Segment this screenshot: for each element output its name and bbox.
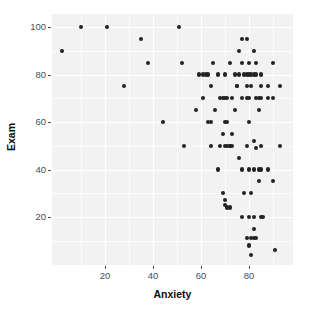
data-point bbox=[278, 144, 282, 148]
data-point bbox=[237, 72, 241, 76]
data-point bbox=[209, 84, 213, 88]
data-point bbox=[182, 144, 186, 148]
data-point bbox=[60, 49, 64, 53]
data-point bbox=[261, 215, 265, 219]
gridline-minor-horizontal bbox=[52, 193, 293, 194]
data-point bbox=[252, 49, 256, 53]
data-point bbox=[259, 96, 263, 100]
data-point bbox=[240, 167, 244, 171]
data-point bbox=[230, 96, 234, 100]
data-point bbox=[213, 108, 217, 112]
gridline-minor-horizontal bbox=[52, 51, 293, 52]
data-point bbox=[228, 205, 232, 209]
y-axis-title: Exam bbox=[5, 97, 17, 177]
data-point bbox=[252, 167, 256, 171]
data-point bbox=[266, 167, 270, 171]
data-point bbox=[225, 96, 229, 100]
x-axis-title: Anxiety bbox=[52, 288, 293, 300]
gridline-minor-horizontal bbox=[52, 241, 293, 242]
gridline-minor-vertical bbox=[81, 14, 82, 265]
data-point bbox=[271, 179, 275, 183]
data-point bbox=[257, 179, 261, 183]
data-point bbox=[254, 72, 258, 76]
x-tick-mark bbox=[201, 266, 202, 269]
gridline-major-horizontal bbox=[52, 217, 293, 218]
x-tick-label: 20 bbox=[90, 271, 120, 281]
data-point bbox=[252, 227, 256, 231]
gridline-major-horizontal bbox=[52, 122, 293, 123]
data-point bbox=[242, 191, 246, 195]
data-point bbox=[233, 108, 237, 112]
data-point bbox=[240, 61, 244, 65]
data-point bbox=[216, 167, 220, 171]
data-point bbox=[209, 120, 213, 124]
gridline-minor-vertical bbox=[177, 14, 178, 265]
data-point bbox=[221, 132, 225, 136]
data-point bbox=[266, 96, 270, 100]
data-point bbox=[245, 144, 249, 148]
data-point bbox=[247, 120, 251, 124]
x-tick-label: 80 bbox=[234, 271, 264, 281]
data-point bbox=[79, 25, 83, 29]
data-point bbox=[252, 215, 256, 219]
data-point bbox=[221, 191, 225, 195]
gridline-minor-vertical bbox=[273, 14, 274, 265]
data-point bbox=[223, 72, 227, 76]
data-point bbox=[259, 144, 263, 148]
y-tick-mark bbox=[48, 170, 51, 171]
data-point bbox=[146, 61, 150, 65]
data-point bbox=[266, 84, 270, 88]
data-point bbox=[249, 253, 253, 257]
data-point bbox=[235, 84, 239, 88]
data-point bbox=[139, 37, 143, 41]
data-point bbox=[211, 61, 215, 65]
data-point bbox=[194, 108, 198, 112]
y-tick-mark bbox=[48, 27, 51, 28]
data-point bbox=[278, 84, 282, 88]
data-point bbox=[197, 72, 201, 76]
data-point bbox=[254, 61, 258, 65]
x-tick-label: 40 bbox=[138, 271, 168, 281]
x-tick-mark bbox=[249, 266, 250, 269]
scatter-chart: 2040608010020406080 Exam Anxiety bbox=[0, 0, 311, 314]
data-point bbox=[218, 144, 222, 148]
gridline-major-vertical bbox=[153, 14, 154, 265]
data-point bbox=[259, 84, 263, 88]
data-point bbox=[259, 167, 263, 171]
y-tick-label: 100 bbox=[4, 22, 46, 32]
data-point bbox=[216, 72, 220, 76]
data-point bbox=[228, 61, 232, 65]
data-point bbox=[209, 144, 213, 148]
data-point bbox=[247, 96, 251, 100]
data-point bbox=[273, 248, 277, 252]
data-point bbox=[122, 84, 126, 88]
data-point bbox=[105, 25, 109, 29]
data-point bbox=[240, 37, 244, 41]
data-point bbox=[237, 49, 241, 53]
data-point bbox=[240, 215, 244, 219]
y-tick-label: 80 bbox=[4, 70, 46, 80]
y-tick-mark bbox=[48, 217, 51, 218]
plot-panel bbox=[52, 14, 293, 265]
data-point bbox=[230, 144, 234, 148]
data-point bbox=[237, 156, 241, 160]
data-point bbox=[240, 96, 244, 100]
data-point bbox=[249, 191, 253, 195]
gridline-major-horizontal bbox=[52, 27, 293, 28]
data-point bbox=[271, 96, 275, 100]
x-tick-mark bbox=[105, 266, 106, 269]
x-tick-label: 60 bbox=[186, 271, 216, 281]
y-tick-mark bbox=[48, 122, 51, 123]
data-point bbox=[161, 120, 165, 124]
data-point bbox=[271, 61, 275, 65]
data-point bbox=[257, 108, 261, 112]
gridline-major-vertical bbox=[201, 14, 202, 265]
data-point bbox=[247, 167, 251, 171]
data-point bbox=[254, 146, 258, 150]
data-point bbox=[180, 61, 184, 65]
gridline-major-vertical bbox=[249, 14, 250, 265]
x-tick-mark bbox=[153, 266, 154, 269]
y-tick-label: 20 bbox=[4, 212, 46, 222]
data-point bbox=[252, 139, 256, 143]
gridline-minor-vertical bbox=[225, 14, 226, 265]
